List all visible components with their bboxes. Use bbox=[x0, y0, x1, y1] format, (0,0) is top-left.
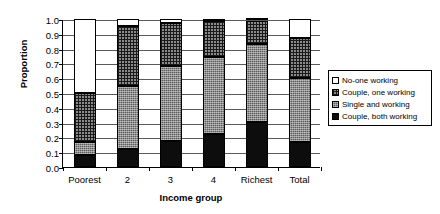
bar-segment[interactable] bbox=[117, 149, 139, 167]
gridline bbox=[63, 20, 320, 21]
legend-swatch-icon bbox=[332, 89, 339, 96]
gridline bbox=[63, 64, 320, 65]
legend-swatch-icon bbox=[332, 101, 339, 108]
bar-segment[interactable] bbox=[246, 21, 268, 45]
legend-item: Couple, both working bbox=[332, 110, 428, 122]
bar-segment[interactable] bbox=[289, 19, 311, 38]
y-axis-tick-mark bbox=[59, 79, 63, 80]
x-axis-tick-mark bbox=[106, 167, 107, 171]
bar-segment[interactable] bbox=[160, 23, 182, 67]
gridline bbox=[63, 138, 320, 139]
y-axis-tick-mark bbox=[59, 35, 63, 36]
bar-segment[interactable] bbox=[117, 26, 139, 87]
gridline bbox=[63, 94, 320, 95]
x-axis-tick-label: 3 bbox=[149, 174, 192, 185]
bar-segment[interactable] bbox=[117, 86, 139, 149]
bar-segment[interactable] bbox=[246, 122, 268, 167]
y-axis-tick-label: 0.6 bbox=[35, 75, 59, 85]
y-axis-tick-label: 0.9 bbox=[35, 31, 59, 41]
bar-segment[interactable] bbox=[160, 66, 182, 141]
bar-segment[interactable] bbox=[160, 19, 182, 23]
bar-segment[interactable] bbox=[160, 141, 182, 167]
bar-column[interactable] bbox=[117, 20, 139, 167]
x-axis-tick-label: Poorest bbox=[63, 174, 106, 185]
y-axis-tick-mark bbox=[59, 124, 63, 125]
bar-column[interactable] bbox=[160, 20, 182, 167]
x-axis-tick-mark bbox=[278, 167, 279, 171]
legend-item: No-one working bbox=[332, 74, 428, 86]
legend-item: Couple, one working bbox=[332, 86, 428, 98]
y-axis-tick-label: 0.0 bbox=[35, 164, 59, 174]
y-axis-tick-label: 0.4 bbox=[35, 105, 59, 115]
legend-swatch-icon bbox=[332, 113, 339, 120]
x-axis-tick-mark bbox=[63, 167, 64, 171]
legend-item-label: Couple, one working bbox=[342, 88, 415, 97]
y-axis-tick-label: 0.8 bbox=[35, 46, 59, 56]
bar-segment[interactable] bbox=[246, 18, 268, 20]
bar-segment[interactable] bbox=[203, 134, 225, 167]
y-axis-tick-mark bbox=[59, 94, 63, 95]
y-axis-title: Proportion bbox=[16, 14, 32, 114]
y-axis-tick-label: 0.1 bbox=[35, 149, 59, 159]
gridline bbox=[63, 124, 320, 125]
gridline bbox=[63, 50, 320, 51]
bar-segment[interactable] bbox=[203, 21, 225, 57]
x-axis-title: Income group bbox=[62, 192, 320, 203]
bar-segment[interactable] bbox=[289, 142, 311, 167]
y-axis-tick-mark bbox=[59, 20, 63, 21]
x-axis-tick-mark bbox=[321, 167, 322, 171]
y-axis-tick-mark bbox=[59, 64, 63, 65]
x-axis-tick-label: 4 bbox=[192, 174, 235, 185]
legend-swatch-icon bbox=[332, 77, 339, 84]
gridline bbox=[63, 153, 320, 154]
chart-legend: No-one workingCouple, one workingSingle … bbox=[328, 70, 432, 126]
gridline bbox=[63, 79, 320, 80]
gridline bbox=[63, 35, 320, 36]
gridline bbox=[63, 109, 320, 110]
bar-segment[interactable] bbox=[203, 57, 225, 134]
legend-item-label: Couple, both working bbox=[342, 112, 417, 121]
y-axis-tick-mark bbox=[59, 50, 63, 51]
bar-segment[interactable] bbox=[74, 93, 96, 142]
legend-item-label: Single and working bbox=[342, 100, 410, 109]
bar-segment[interactable] bbox=[74, 19, 96, 93]
bar-segment[interactable] bbox=[74, 142, 96, 155]
y-axis-tick-mark bbox=[59, 153, 63, 154]
y-axis-tick-label: 1.0 bbox=[35, 16, 59, 26]
y-axis-tick-mark bbox=[59, 109, 63, 110]
legend-item-label: No-one working bbox=[342, 76, 398, 85]
bar-segment[interactable] bbox=[203, 19, 225, 21]
y-axis-tick-mark bbox=[59, 138, 63, 139]
y-axis-tick-label: 0.7 bbox=[35, 60, 59, 70]
bar-segment[interactable] bbox=[289, 78, 311, 142]
bar-column[interactable] bbox=[289, 20, 311, 167]
plot-area: 1.00.90.80.70.60.50.40.30.20.10.0Poorest… bbox=[62, 20, 320, 168]
bar-segment[interactable] bbox=[289, 38, 311, 79]
stacked-bar-chart: Proportion 1.00.90.80.70.60.50.40.30.20.… bbox=[0, 0, 440, 214]
x-axis-tick-mark bbox=[192, 167, 193, 171]
legend-item: Single and working bbox=[332, 98, 428, 110]
x-axis-tick-label: 2 bbox=[106, 174, 149, 185]
x-axis-tick-mark bbox=[235, 167, 236, 171]
bar-column[interactable] bbox=[74, 20, 96, 167]
bar-column[interactable] bbox=[203, 20, 225, 167]
bar-segment[interactable] bbox=[246, 44, 268, 122]
y-axis-tick-label: 0.2 bbox=[35, 134, 59, 144]
y-axis-tick-label: 0.3 bbox=[35, 120, 59, 130]
bar-segment[interactable] bbox=[74, 155, 96, 167]
bar-segment[interactable] bbox=[117, 19, 139, 26]
y-axis-tick-label: 0.5 bbox=[35, 90, 59, 100]
bar-column[interactable] bbox=[246, 20, 268, 167]
x-axis-tick-label: Richest bbox=[235, 174, 278, 185]
x-axis-tick-label: Total bbox=[278, 174, 321, 185]
x-axis-tick-mark bbox=[149, 167, 150, 171]
